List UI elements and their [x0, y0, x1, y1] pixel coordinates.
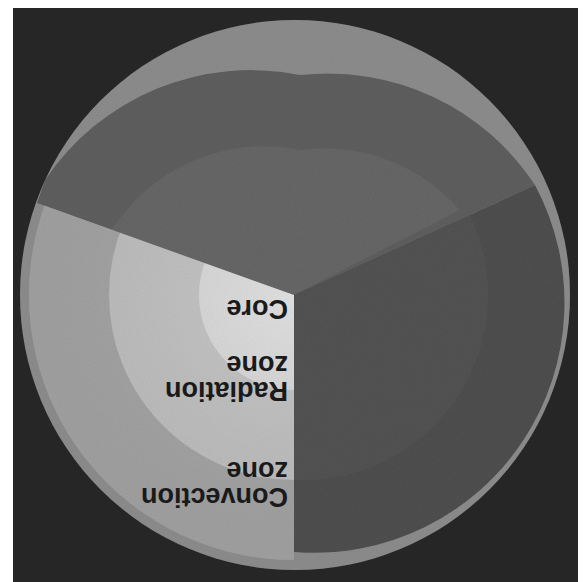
- sun-cutaway-diagram: Core zone Radiation zone Convection: [0, 0, 584, 582]
- label-radiation-zone-line2: zone: [226, 350, 288, 380]
- label-convection-zone-line2: zone: [226, 456, 288, 486]
- label-convection-zone-line1: Convection: [141, 482, 288, 512]
- label-radiation-zone-line1: Radiation: [165, 376, 288, 406]
- label-core: Core: [226, 294, 288, 324]
